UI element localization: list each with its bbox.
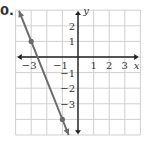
y-axis-arrow-down-icon: [75, 130, 81, 134]
y-tick-label: −3: [60, 99, 75, 110]
y-axis-label: y: [82, 5, 89, 16]
x-tick-label: −3: [22, 60, 37, 71]
y-tick-label: 2: [69, 21, 75, 32]
data-point: [60, 117, 65, 122]
data-point: [29, 39, 34, 44]
y-axis-arrow-up-icon: [75, 11, 81, 15]
coordinate-plane: −3−112321−1−2−3xy: [0, 0, 144, 141]
y-tick-label: −1: [60, 68, 75, 79]
x-tick-label: 1: [90, 60, 96, 71]
x-tick-label: 3: [122, 60, 128, 71]
x-tick-label: 2: [106, 60, 112, 71]
y-tick-label: −2: [60, 83, 75, 94]
x-axis-label: x: [134, 60, 140, 71]
y-tick-label: 1: [69, 36, 75, 47]
